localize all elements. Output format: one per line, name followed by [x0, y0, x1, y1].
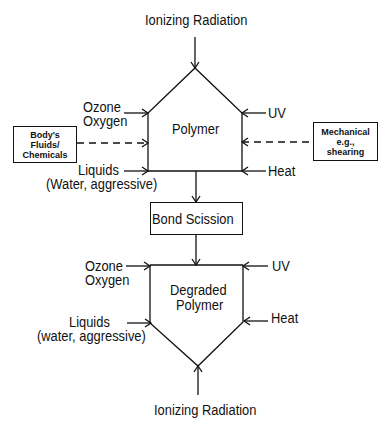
- degraded-polymer-shape: [150, 265, 243, 366]
- heat-label-upper: Heat: [268, 164, 295, 178]
- polymer-label-lower: Polymer: [172, 298, 227, 312]
- water-aggressive-label-lower: (water, aggressive): [37, 329, 146, 343]
- heat-label-lower: Heat: [271, 311, 298, 325]
- mechanical-shearing-box: Mechanical e.g., shearing: [313, 122, 378, 161]
- oxygen-label-upper: Oxygen: [83, 114, 127, 128]
- polymer-label: Polymer: [172, 122, 219, 136]
- body-fluids-line3: Chemicals: [22, 150, 67, 160]
- top-ionizing-radiation-label: Ionizing Radiation: [145, 13, 247, 27]
- bottom-ionizing-radiation-label: Ionizing Radiation: [154, 403, 256, 417]
- uv-label-lower: UV: [272, 259, 290, 273]
- mechanical-line2: e.g.,: [321, 137, 370, 147]
- body-fluids-line1: Body's: [22, 130, 67, 140]
- body-fluids-chemicals-box: Body's Fluids/ Chemicals: [13, 126, 77, 163]
- degraded-label: Degraded: [170, 283, 225, 297]
- uv-label-upper: UV: [268, 106, 286, 120]
- ozone-label-upper: Ozone: [83, 100, 121, 114]
- water-aggressive-label-upper: (Water, aggressive): [46, 177, 157, 191]
- polymer-shape: [148, 68, 242, 171]
- bond-scission-label: Bond Scission: [152, 212, 234, 226]
- mechanical-line1: Mechanical: [321, 127, 370, 137]
- ozone-label-lower: Ozone: [85, 259, 123, 273]
- liquids-label-lower: Liquids: [69, 315, 110, 329]
- body-fluids-line2: Fluids/: [22, 140, 67, 150]
- bond-scission-box: Bond Scission: [150, 202, 243, 235]
- liquids-label-upper: Liquids: [78, 163, 119, 177]
- oxygen-label-lower: Oxygen: [85, 273, 129, 287]
- mechanical-line3: shearing: [321, 147, 370, 157]
